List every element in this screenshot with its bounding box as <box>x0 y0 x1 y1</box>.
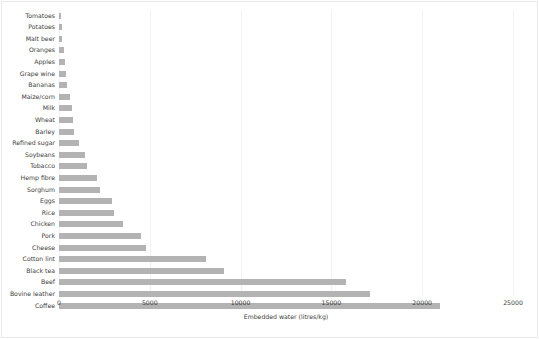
bar-row[interactable]: Potatoes <box>59 22 513 34</box>
bar-category-label: Eggs <box>40 195 55 207</box>
x-tick-label: 25000 <box>503 299 523 306</box>
bar-category-label: Malt beer <box>26 33 55 45</box>
bar-row[interactable]: Grape wine <box>59 68 513 80</box>
x-tick-label: 10000 <box>231 299 251 306</box>
bar-row[interactable]: Maize/corn <box>59 91 513 103</box>
bar-category-label: Bovine leather <box>10 288 55 300</box>
bar[interactable] <box>59 94 70 100</box>
bar[interactable] <box>59 279 346 285</box>
bar[interactable] <box>59 24 62 30</box>
bar-row[interactable]: Tobacco <box>59 161 513 173</box>
x-axis: 0500010000150002000025000 <box>59 299 513 313</box>
bar[interactable] <box>59 175 97 181</box>
bar-row[interactable]: Rice <box>59 207 513 219</box>
bar[interactable] <box>59 82 67 88</box>
bar-row[interactable]: Beef <box>59 277 513 289</box>
bar-row[interactable]: Chicken <box>59 219 513 231</box>
bar-category-label: Maize/corn <box>21 91 55 103</box>
bar[interactable] <box>59 233 141 239</box>
bar-row[interactable]: Sorghum <box>59 184 513 196</box>
bar-row[interactable]: Refined sugar <box>59 138 513 150</box>
bar[interactable] <box>59 105 72 111</box>
bar[interactable] <box>59 268 224 274</box>
bar[interactable] <box>59 221 123 227</box>
water-footprint-bar-chart: TomatoesPotatoesMalt beerOrangesApplesGr… <box>0 0 539 339</box>
bar-category-label: Cheese <box>32 242 55 254</box>
x-tick-label: 20000 <box>412 299 432 306</box>
x-axis-title: Embedded water (litres/kg) <box>59 313 513 320</box>
bar-category-label: Refined sugar <box>12 137 55 149</box>
x-tick-label: 5000 <box>142 299 158 306</box>
bar[interactable] <box>59 140 79 146</box>
bar-row[interactable]: Oranges <box>59 45 513 57</box>
bar[interactable] <box>59 129 74 135</box>
bar-category-label: Black tea <box>26 265 55 277</box>
bar[interactable] <box>59 245 146 251</box>
bar-row[interactable]: Hemp fibre <box>59 172 513 184</box>
bar-category-label: Cotton lint <box>23 253 55 265</box>
bar[interactable] <box>59 187 100 193</box>
bar-row[interactable]: Tomatoes <box>59 10 513 22</box>
bar-category-label: Milk <box>43 102 55 114</box>
bar-row[interactable]: Pork <box>59 230 513 242</box>
bar-category-label: Tobacco <box>30 160 55 172</box>
bar[interactable] <box>59 71 66 77</box>
bar-category-label: Soybeans <box>25 149 55 161</box>
x-tick-label: 0 <box>57 299 61 306</box>
bar[interactable] <box>59 36 62 42</box>
gridline-25000 <box>513 10 514 295</box>
bar-row[interactable]: Cheese <box>59 242 513 254</box>
bar[interactable] <box>59 163 87 169</box>
bar-row[interactable]: Milk <box>59 103 513 115</box>
bar[interactable] <box>59 256 206 262</box>
bar-category-label: Oranges <box>29 44 55 56</box>
bar[interactable] <box>59 210 114 216</box>
x-tick-label: 15000 <box>322 299 342 306</box>
bar-category-label: Tomatoes <box>25 10 55 22</box>
bar-category-label: Grape wine <box>20 68 55 80</box>
bar-category-label: Pork <box>42 230 55 242</box>
bar-category-label: Beef <box>41 276 55 288</box>
plot-area: TomatoesPotatoesMalt beerOrangesApplesGr… <box>59 10 513 295</box>
bar-category-label: Chicken <box>31 218 55 230</box>
bar-category-label: Potatoes <box>28 21 55 33</box>
bar-category-label: Hemp fibre <box>21 172 55 184</box>
bar-row[interactable]: Wheat <box>59 114 513 126</box>
bar-category-label: Barley <box>35 126 55 138</box>
bar-category-label: Apples <box>34 56 55 68</box>
bar-row[interactable]: Apples <box>59 56 513 68</box>
bar-category-label: Wheat <box>35 114 55 126</box>
bar[interactable] <box>59 47 64 53</box>
bar-category-label: Sorghum <box>27 184 55 196</box>
bar[interactable] <box>59 117 73 123</box>
bar[interactable] <box>59 59 65 65</box>
bar-category-label: Rice <box>42 207 55 219</box>
bar[interactable] <box>59 198 112 204</box>
bar-category-label: Bananas <box>28 79 55 91</box>
bar-row[interactable]: Soybeans <box>59 149 513 161</box>
bar-row[interactable]: Bananas <box>59 80 513 92</box>
bar-row[interactable]: Cotton lint <box>59 254 513 266</box>
bar-row[interactable]: Malt beer <box>59 33 513 45</box>
bar[interactable] <box>59 291 370 297</box>
bar-row[interactable]: Barley <box>59 126 513 138</box>
bar[interactable] <box>59 152 85 158</box>
bar-row[interactable]: Black tea <box>59 265 513 277</box>
bar[interactable] <box>59 13 61 19</box>
bar-category-label: Coffee <box>35 300 55 312</box>
bar-row[interactable]: Eggs <box>59 196 513 208</box>
